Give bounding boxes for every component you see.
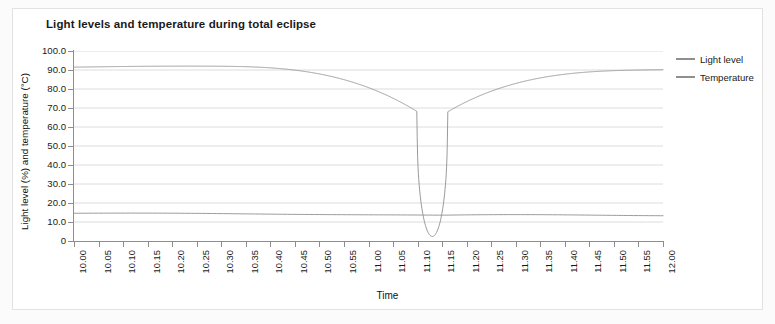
- y-axis-tick-label: 70.0: [47, 103, 66, 113]
- x-axis-tick-label: 11.15: [446, 250, 455, 273]
- x-axis-tick: [295, 242, 296, 247]
- y-axis-line: [73, 50, 74, 242]
- x-axis-tick: [99, 242, 100, 247]
- x-axis-tick: [197, 242, 198, 247]
- x-axis-tick-label: 11.00: [373, 250, 382, 273]
- x-axis-tick-label: 10.35: [250, 250, 259, 273]
- plot-area: [74, 51, 663, 241]
- x-axis-tick-label: 10.10: [127, 250, 136, 273]
- x-axis-tick-label: 11.25: [495, 250, 504, 273]
- x-axis-tick-label: 10.25: [201, 250, 210, 273]
- chart-legend: Light level Temperature: [676, 50, 772, 86]
- x-axis-tick-label: 10.55: [348, 250, 357, 273]
- x-axis-tick: [418, 242, 419, 247]
- legend-swatch-light-level: [676, 58, 695, 59]
- legend-swatch-temperature: [676, 76, 695, 77]
- x-axis-tick-label: 11.50: [618, 250, 627, 273]
- x-axis-tick: [148, 242, 149, 247]
- legend-item-light-level[interactable]: Light level: [676, 50, 772, 68]
- x-axis-tick: [540, 242, 541, 247]
- y-axis-tick-labels: 100.090.080.070.060.050.040.030.020.010.…: [0, 0, 66, 324]
- x-axis-tick-label: 10.30: [225, 250, 234, 273]
- x-axis-tick: [246, 242, 247, 247]
- y-axis-tick-label: 80.0: [47, 84, 66, 94]
- y-axis-tick-label: 90.0: [47, 65, 66, 75]
- x-axis-tick-label: 11.40: [569, 250, 578, 273]
- x-axis-title: Time: [0, 290, 775, 301]
- x-axis-tick: [663, 242, 664, 247]
- legend-label-temperature: Temperature: [700, 72, 754, 83]
- x-axis-tick: [123, 242, 124, 247]
- y-axis-tick-label: 30.0: [47, 179, 66, 189]
- legend-item-temperature[interactable]: Temperature: [676, 68, 772, 86]
- y-axis-tick-label: 20.0: [47, 198, 66, 208]
- x-axis-tick-label: 10.15: [152, 250, 161, 273]
- x-axis-tick: [565, 242, 566, 247]
- x-axis-tick: [319, 242, 320, 247]
- chart-figure: Light levels and temperature during tota…: [0, 0, 775, 324]
- x-axis-tick-label: 11.45: [593, 250, 602, 273]
- x-axis-tick-label: 11.35: [544, 250, 553, 273]
- x-axis-tick-label: 10.40: [274, 250, 283, 273]
- x-axis-tick-label: 11.05: [397, 250, 406, 273]
- x-axis-tick: [442, 242, 443, 247]
- x-axis-tick-label: 11.20: [471, 250, 480, 273]
- x-axis-tick: [393, 242, 394, 247]
- x-axis-tick: [74, 242, 75, 247]
- y-axis-title: Light level (%) and temperature (°C): [19, 52, 30, 252]
- series-line-temperature: [74, 213, 663, 216]
- x-axis-tick-label: 10.45: [299, 250, 308, 273]
- x-axis-tick-label: 10.20: [176, 250, 185, 273]
- chart-title: Light levels and temperature during tota…: [46, 18, 316, 30]
- x-axis-tick-label: 10.05: [103, 250, 112, 273]
- y-axis-tick-label: 40.0: [47, 160, 66, 170]
- x-axis-tick: [614, 242, 615, 247]
- data-series-layer: [74, 51, 663, 241]
- y-axis-tick-label: 50.0: [47, 141, 66, 151]
- x-axis-tick-label: 10.00: [78, 250, 87, 273]
- x-axis-tick: [589, 242, 590, 247]
- y-axis-tick-label: 60.0: [47, 122, 66, 132]
- x-axis-tick-label: 12.00: [667, 250, 676, 273]
- x-axis-tick-label: 10.50: [323, 250, 332, 273]
- x-axis-tick-label: 11.30: [520, 250, 529, 273]
- x-axis-tick: [638, 242, 639, 247]
- x-axis-tick: [369, 242, 370, 247]
- y-axis-tick-label: 10.0: [47, 217, 66, 227]
- x-axis-tick: [344, 242, 345, 247]
- y-axis-tick-label: 100.0: [42, 46, 66, 56]
- x-axis-tick: [467, 242, 468, 247]
- series-line-light-level: [74, 66, 663, 236]
- x-axis-tick: [172, 242, 173, 247]
- x-axis-tick-label: 11.55: [642, 250, 651, 273]
- x-axis-tick: [270, 242, 271, 247]
- x-axis-tick: [491, 242, 492, 247]
- legend-label-light-level: Light level: [700, 54, 743, 65]
- x-axis-tick: [516, 242, 517, 247]
- x-axis-tick: [221, 242, 222, 247]
- x-axis-tick-label: 11.10: [422, 250, 431, 273]
- y-axis-tick-label: 0: [61, 236, 66, 246]
